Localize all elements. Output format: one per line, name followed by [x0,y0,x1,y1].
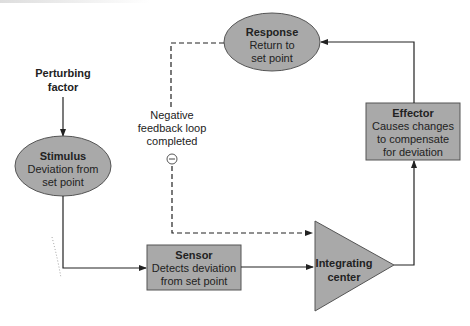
minus-circle-icon [167,154,177,164]
stimulus-node: Stimulus Deviation from set point [15,136,111,196]
feedback-dashed-line-bottom [172,166,312,233]
feedback-dashed-line-top [171,43,224,108]
sensor-node: Sensor Detects deviation from set point [147,245,241,290]
effector-line3: for deviation [383,146,443,158]
integrating-line2: center [327,271,361,283]
perturbing-factor-label: Perturbing factor [35,67,91,93]
effector-line2: to compensate [377,133,449,145]
effector-line1: Causes changes [372,120,454,132]
stimulus-line2: set point [42,176,84,188]
effector-node: Effector Causes changes to compensate fo… [366,103,460,160]
sensor-title: Sensor [175,249,213,261]
response-node: Response Return to set point [224,13,320,71]
effector-title: Effector [392,107,434,119]
feedback-loop-diagram: Perturbing factor Stimulus Deviation fro… [0,0,470,326]
integrating-line1: Integrating [316,257,373,269]
integrating-center-node: Integrating center [315,221,394,311]
feedback-line3: completed [147,135,198,147]
effector-to-response-arrow [321,42,414,103]
response-line1: Return to [249,39,294,51]
response-title: Response [246,26,299,38]
scan-edge-shade [0,0,150,3]
feedback-line1: Negative [150,109,193,121]
perturbing-line1: Perturbing [35,67,91,79]
stimulus-line1: Deviation from [28,163,99,175]
perturbing-line2: factor [48,81,79,93]
feedback-line2: feedback loop [138,122,207,134]
sensor-line1: Detects deviation [152,262,236,274]
stimulus-title: Stimulus [40,150,86,162]
sensor-line2: from set point [161,275,228,287]
integrating-to-effector-arrow [394,161,414,265]
response-line2: set point [251,52,293,64]
scan-artifact [52,237,61,278]
stimulus-to-sensor-arrow [63,196,146,268]
negative-feedback-label: Negative feedback loop completed [138,109,207,147]
